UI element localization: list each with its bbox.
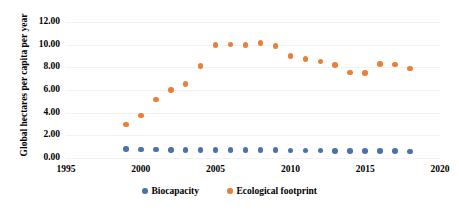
x-axis-tick-label: 2005 (196, 165, 236, 175)
data-point (318, 148, 324, 154)
data-point (123, 146, 129, 152)
data-point (273, 147, 279, 153)
data-point (243, 147, 249, 153)
data-point (362, 70, 368, 76)
data-point (213, 147, 219, 153)
data-point (332, 148, 338, 154)
data-point (303, 56, 309, 62)
data-point (168, 87, 174, 93)
gridline (66, 45, 440, 46)
data-point (318, 59, 324, 65)
x-axis-tick-label: 2010 (270, 165, 310, 175)
data-point (258, 40, 264, 46)
legend-marker-icon (142, 188, 148, 194)
y-axis-title: Global hectares per capita per year (19, 5, 29, 165)
legend-item[interactable]: Biocapacity (142, 186, 199, 196)
data-point (392, 148, 398, 154)
gridline (66, 158, 440, 159)
data-point (258, 147, 264, 153)
data-point (347, 148, 353, 154)
data-point (288, 53, 294, 59)
x-axis-tick-label: 1995 (46, 165, 86, 175)
data-point (198, 147, 204, 153)
gridline (66, 113, 440, 114)
legend-item[interactable]: Ecological footprint (227, 186, 317, 196)
legend-label: Biocapacity (152, 186, 200, 196)
data-point (288, 148, 294, 154)
data-point (243, 42, 249, 48)
chart-container: Global hectares per capita per year 0.00… (0, 0, 459, 210)
data-point (183, 147, 189, 153)
data-point (377, 61, 383, 67)
x-axis-tick-label: 2000 (121, 165, 161, 175)
data-point (303, 148, 309, 154)
gridline (66, 67, 440, 68)
data-point (377, 148, 383, 154)
data-point (362, 148, 368, 154)
x-axis-tick-label: 2020 (420, 165, 459, 175)
data-point (228, 42, 234, 48)
data-point (228, 147, 234, 153)
gridline (66, 22, 440, 23)
data-point (123, 122, 129, 128)
data-point (332, 62, 338, 68)
data-point (153, 97, 159, 103)
gridline (66, 90, 440, 91)
plot-area (66, 22, 440, 158)
data-point (183, 81, 189, 87)
data-point (213, 42, 219, 48)
data-point (168, 147, 174, 153)
x-axis-tick-label: 2015 (345, 165, 385, 175)
data-point (407, 149, 413, 155)
data-point (407, 66, 413, 72)
data-point (153, 147, 159, 153)
chart-legend: BiocapacityEcological footprint (0, 186, 459, 196)
legend-marker-icon (227, 188, 233, 194)
data-point (138, 113, 144, 119)
data-point (347, 70, 353, 76)
data-point (273, 43, 279, 49)
data-point (138, 147, 144, 153)
gridline (66, 135, 440, 136)
legend-label: Ecological footprint (237, 186, 317, 196)
